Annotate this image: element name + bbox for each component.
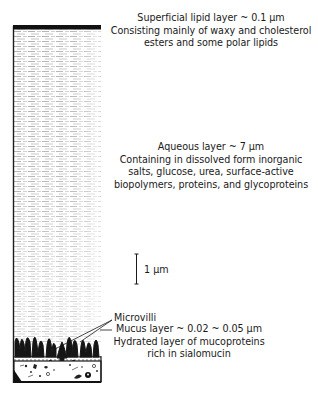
lipid-layer-bar xyxy=(13,25,101,30)
mucus-layer-title: Mucus layer ~ 0.02 ~ 0.05 μm xyxy=(104,323,274,336)
lipid-layer-title: Superficial lipid layer ~ 0.1 μm xyxy=(104,12,318,25)
lipid-layer-label: Superficial lipid layer ~ 0.1 μm Consist… xyxy=(104,12,318,50)
lipid-layer-description-line-1: Consisting mainly of waxy and cholestero… xyxy=(104,25,318,38)
tear-film-diagram: Superficial lipid layer ~ 0.1 μm Consist… xyxy=(0,0,318,393)
lipid-layer-description-line-2: esters and some polar lipids xyxy=(104,37,318,50)
aqueous-layer-description-line-2: salts, glucose, urea, surface-active xyxy=(104,166,318,179)
aqueous-layer-description-line-1: Containing in dissolved form inorganic xyxy=(104,154,318,167)
mucus-layer-description-line-1: Hydrated layer of mucoproteins xyxy=(104,336,274,349)
scale-bar-label: 1 μm xyxy=(144,264,169,275)
aqueous-layer-region xyxy=(14,29,101,345)
aqueous-layer-description-line-3: biopolymers, proteins, and glycoproteins xyxy=(104,179,318,192)
mucus-layer-label: Mucus layer ~ 0.02 ~ 0.05 μm Hydrated la… xyxy=(104,323,274,361)
aqueous-layer-title: Aqueous layer ~ 7 μm xyxy=(104,141,318,154)
aqueous-layer-label: Aqueous layer ~ 7 μm Containing in disso… xyxy=(104,141,318,191)
scale-bar xyxy=(135,254,139,284)
mucus-layer-description-line-2: rich in sialomucin xyxy=(104,348,274,361)
